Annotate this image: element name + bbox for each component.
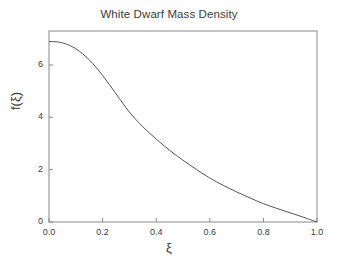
x-tick-label: 0.2 — [83, 227, 123, 237]
x-tick-label: 0.4 — [136, 227, 176, 237]
figure-container: White Dwarf Mass Density 0.00.20.40.60.8… — [0, 0, 338, 266]
y-tick-label: 0 — [23, 216, 43, 226]
y-tick-label: 2 — [23, 164, 43, 174]
y-tick-label: 6 — [23, 59, 43, 69]
x-tick-label: 1.0 — [297, 227, 337, 237]
x-tick-label: 0.0 — [29, 227, 69, 237]
x-tick-label: 0.8 — [243, 227, 283, 237]
x-axis-label: ξ — [0, 240, 338, 255]
x-tick-label: 0.6 — [190, 227, 230, 237]
y-tick-label: 4 — [23, 111, 43, 121]
y-axis-label: f(ξ) — [8, 92, 23, 110]
